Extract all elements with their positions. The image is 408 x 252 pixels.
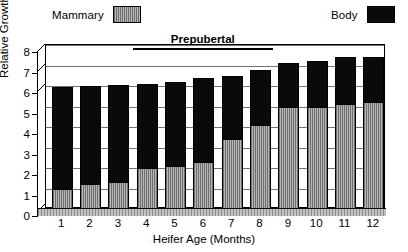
legend-swatch-mammary-icon — [113, 6, 141, 23]
bar-group — [363, 45, 384, 209]
bar-group — [108, 45, 129, 209]
x-axis-tick-label: 3 — [115, 217, 121, 229]
bar-mammary — [52, 189, 73, 210]
x-axis-ticks: 123456789101112 — [45, 217, 385, 233]
bar-group — [278, 45, 299, 209]
x-axis-tick-label: 7 — [228, 217, 234, 229]
x-axis-tick-label: 8 — [256, 217, 262, 229]
y-axis-tick — [32, 155, 38, 156]
bar-series-layer — [46, 45, 384, 207]
bar-group — [137, 45, 158, 209]
bar-mammary — [137, 168, 158, 209]
bar-mammary — [307, 107, 328, 210]
x-axis-tick-label: 12 — [366, 217, 379, 229]
y-axis-tick-label: 2 — [12, 169, 30, 181]
y-axis-tick — [32, 216, 38, 217]
x-axis-tick-label: 9 — [285, 217, 291, 229]
y-axis-tick-label: 5 — [12, 108, 30, 120]
bar-group — [250, 45, 271, 209]
y-axis-tick — [32, 73, 38, 74]
legend-label-mammary: Mammary — [52, 9, 104, 21]
y-axis-title: Relative Growth — [0, 0, 10, 78]
bar-mammary — [335, 104, 356, 209]
bar-mammary — [222, 139, 243, 209]
x-axis-tick-label: 4 — [143, 217, 149, 229]
bar-mammary — [193, 162, 214, 209]
axis-depth-connectors — [37, 44, 46, 208]
chart-container: Mammary Body Relative Growth 012345678 1… — [0, 0, 408, 252]
y-axis-tick-label: 1 — [12, 190, 30, 202]
y-axis-tick-label: 6 — [12, 87, 30, 99]
x-axis-tick-label: 5 — [171, 217, 177, 229]
legend-label-body: Body — [331, 9, 358, 21]
bar-mammary — [250, 125, 271, 209]
y-axis-tick-label: 0 — [12, 210, 30, 222]
x-axis-tick-label: 6 — [200, 217, 206, 229]
y-axis-tick-label: 3 — [12, 149, 30, 161]
plot-area — [45, 44, 385, 208]
bar-group — [335, 45, 356, 209]
y-axis-tick — [32, 93, 38, 94]
bar-group — [222, 45, 243, 209]
x-axis-title: Heifer Age (Months) — [0, 233, 408, 245]
y-axis-tick-label: 4 — [12, 128, 30, 140]
bar-mammary — [80, 184, 101, 209]
bar-group — [52, 45, 73, 209]
bar-mammary — [108, 182, 129, 209]
annotation-label: Prepubertal — [171, 33, 235, 45]
annotation-line — [133, 48, 273, 50]
chart-floor — [38, 208, 386, 216]
y-axis-tick — [32, 134, 38, 135]
bar-group — [80, 45, 101, 209]
x-axis-tick-label: 10 — [310, 217, 323, 229]
x-axis-tick-label: 2 — [86, 217, 92, 229]
x-axis-tick-label: 1 — [58, 217, 64, 229]
bar-group — [307, 45, 328, 209]
y-axis-tick — [32, 52, 38, 53]
bar-mammary — [278, 107, 299, 210]
x-axis-tick-label: 11 — [339, 217, 351, 229]
bar-group — [193, 45, 214, 209]
legend-swatch-body-icon — [367, 6, 395, 23]
y-axis-tick — [32, 175, 38, 176]
bar-mammary — [165, 166, 186, 209]
chart-legend: Mammary Body — [0, 0, 408, 32]
y-axis-tick-label: 8 — [12, 46, 30, 58]
bar-group — [165, 45, 186, 209]
legend-item-mammary: Mammary — [52, 6, 141, 23]
y-axis-tick — [32, 114, 38, 115]
y-axis-tick-label: 7 — [12, 67, 30, 79]
y-axis-tick — [32, 196, 38, 197]
legend-item-body: Body — [331, 6, 395, 23]
bar-mammary — [363, 102, 384, 209]
